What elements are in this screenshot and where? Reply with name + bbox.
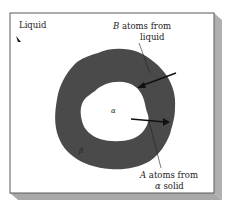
a-atoms-symbol: A bbox=[139, 170, 146, 180]
alpha-label: α bbox=[111, 107, 116, 115]
b-atoms-symbol: B bbox=[112, 21, 119, 31]
liquid-label: Liquid bbox=[19, 20, 47, 30]
diagram-svg: Liquid α β B atoms from liquid A atoms f… bbox=[0, 0, 235, 212]
diagram-canvas: Liquid α β B atoms from liquid A atoms f… bbox=[0, 0, 235, 212]
b-atoms-label-line2: liquid bbox=[140, 32, 165, 42]
beta-label: β bbox=[78, 147, 83, 155]
a-atoms-solid-text: solid bbox=[161, 181, 185, 191]
a-atoms-label-line2: α solid bbox=[155, 181, 184, 191]
a-atoms-label-line1: A atoms from bbox=[139, 170, 198, 180]
b-atoms-text: atoms from bbox=[119, 21, 171, 31]
frame-shadow-right bbox=[214, 13, 222, 200]
frame-shadow-bottom bbox=[10, 193, 222, 200]
a-atoms-text: atoms from bbox=[146, 170, 198, 180]
b-atoms-label-line1: B atoms from bbox=[112, 21, 171, 31]
